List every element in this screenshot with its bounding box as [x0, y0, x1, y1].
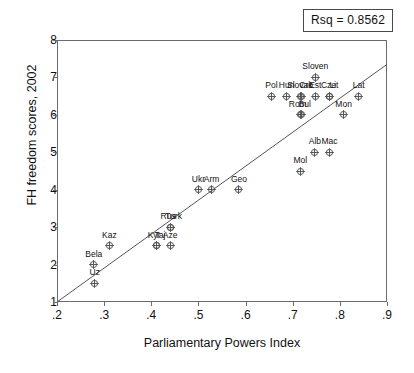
data-point-label: Sloven — [302, 62, 328, 71]
x-tick-mark — [246, 302, 247, 306]
rsq-annotation-box: Rsq = 0.8562 — [303, 9, 393, 32]
data-point-label: Kaz — [102, 230, 117, 239]
data-point-marker — [152, 241, 161, 250]
x-tick-mark — [387, 302, 388, 306]
x-tick-mark — [151, 302, 152, 306]
data-point-marker — [105, 241, 114, 250]
data-point-label: Bela — [85, 249, 102, 258]
x-tick-label: .2 — [45, 308, 69, 322]
data-point-marker — [325, 92, 334, 101]
data-point-marker — [354, 92, 363, 101]
x-tick-label: .4 — [139, 308, 163, 322]
x-axis-title: Parliamentary Powers Index — [57, 336, 387, 350]
data-point-marker — [339, 110, 348, 119]
data-point-marker — [267, 92, 276, 101]
data-point-marker — [89, 260, 98, 269]
x-tick-label: .7 — [281, 308, 305, 322]
data-point-label: Arm — [204, 174, 220, 183]
x-tick-mark — [57, 302, 58, 306]
data-point-marker — [297, 92, 306, 101]
y-axis-ticks: 12345678 — [36, 40, 57, 302]
chart-page: Rsq = 0.8562 FH freedom scores, 2002 123… — [0, 0, 414, 373]
data-point-marker — [234, 185, 243, 194]
data-point-marker — [311, 73, 320, 82]
x-tick-label: .8 — [328, 308, 352, 322]
data-point-marker — [194, 185, 203, 194]
data-point-marker — [297, 110, 306, 119]
plot-area: UzBelaKazKyrTajAzeRusTurkUkrArmGeoMolAlb… — [57, 40, 387, 302]
x-tick-label: .6 — [234, 308, 258, 322]
x-axis-ticks: .2.3.4.5.6.7.8.9 — [57, 302, 387, 324]
x-tick-label: .9 — [375, 308, 399, 322]
data-point-label: Mon — [335, 99, 352, 108]
data-point-marker — [282, 92, 291, 101]
data-point-marker — [166, 223, 175, 232]
data-point-marker — [310, 148, 319, 157]
x-tick-mark — [340, 302, 341, 306]
x-tick-label: .5 — [186, 308, 210, 322]
data-point-marker — [207, 185, 216, 194]
x-tick-mark — [198, 302, 199, 306]
data-point-label: Lit — [329, 81, 338, 90]
data-point-label: Turk — [165, 212, 182, 221]
rsq-text: Rsq = 0.8562 — [311, 13, 385, 27]
data-point-label: Lat — [353, 81, 365, 90]
data-point-label: Mol — [293, 156, 307, 165]
x-tick-label: .3 — [92, 308, 116, 322]
data-point-label: Pol — [265, 81, 277, 90]
data-point-marker — [90, 279, 99, 288]
data-point-marker — [296, 167, 305, 176]
data-point-label: Alb — [309, 137, 321, 146]
data-point-label: Mac — [321, 137, 337, 146]
data-point-marker — [311, 92, 320, 101]
x-tick-mark — [293, 302, 294, 306]
data-point-marker — [325, 148, 334, 157]
x-tick-mark — [104, 302, 105, 306]
data-point-label: Geo — [231, 174, 247, 183]
data-point-marker — [166, 241, 175, 250]
